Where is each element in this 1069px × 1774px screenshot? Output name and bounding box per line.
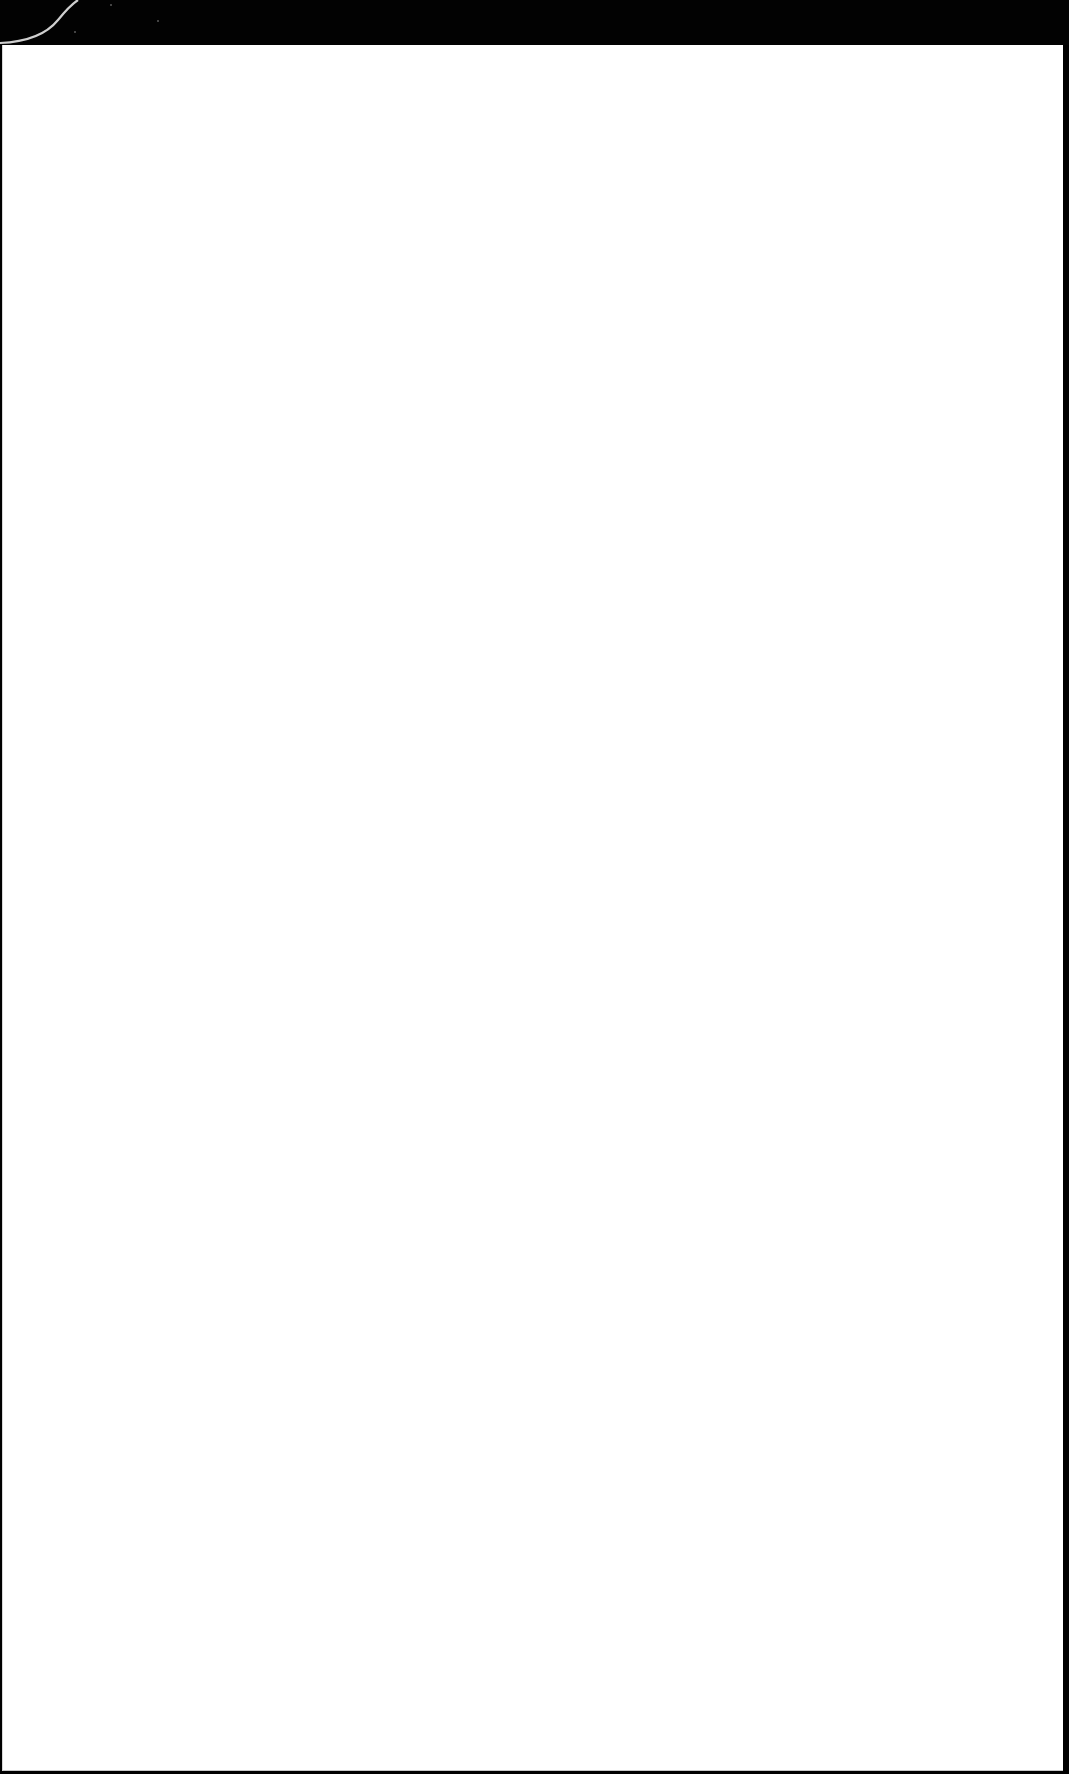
- top-dark-strip: [0, 0, 1069, 45]
- dust-speck: [110, 4, 112, 6]
- dust-speck: [74, 31, 76, 33]
- blank-page: [2, 45, 1063, 1771]
- photo-frame: [0, 0, 1069, 1774]
- curved-line-decoration: [0, 0, 100, 46]
- right-dark-edge: [1063, 45, 1069, 1774]
- dust-speck: [157, 20, 159, 22]
